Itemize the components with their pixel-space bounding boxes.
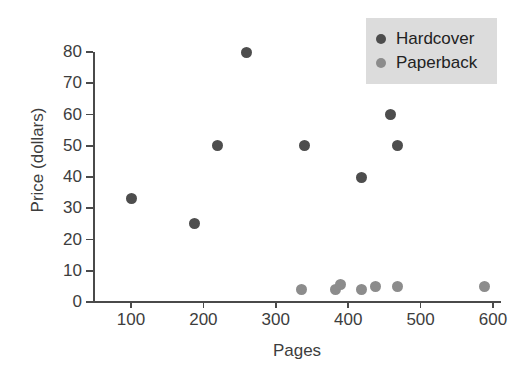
y-axis-tick (86, 176, 93, 178)
data-point (189, 218, 200, 229)
legend-marker-icon (376, 58, 386, 68)
x-axis-tick (203, 301, 205, 308)
x-axis-title: Pages (93, 341, 501, 361)
y-axis-tick (86, 239, 93, 241)
data-point (356, 284, 367, 295)
legend-item-label: Paperback (396, 53, 477, 73)
x-axis-tick (420, 301, 422, 308)
y-axis-tick (86, 207, 93, 209)
y-axis-tick-label: 10 (38, 261, 82, 281)
y-axis-tick-label: 80 (38, 42, 82, 62)
x-axis-tick-label: 300 (246, 310, 306, 330)
legend-item-paperback[interactable]: Paperback (376, 51, 497, 75)
x-axis-tick (275, 301, 277, 308)
x-axis-tick-label: 500 (391, 310, 451, 330)
x-axis-tick (130, 301, 132, 308)
y-axis-tick-label-wrap: 10 (34, 261, 82, 281)
y-axis-title: Price (dollars) (28, 60, 48, 260)
data-point (241, 47, 252, 58)
data-point (212, 140, 223, 151)
data-point (479, 281, 490, 292)
y-axis-tick (86, 301, 93, 303)
data-point (370, 281, 381, 292)
data-point (335, 279, 346, 290)
y-axis-line (93, 52, 95, 302)
chart-page: 01020304050607080 100200300400500600 Pri… (0, 0, 529, 380)
y-axis-tick-label-wrap: 0 (34, 292, 82, 312)
data-point (296, 284, 307, 295)
y-axis-tick (86, 145, 93, 147)
y-axis-tick (86, 270, 93, 272)
x-axis-tick-label: 100 (101, 310, 161, 330)
x-axis-tick (492, 301, 494, 308)
y-axis-tick-label-wrap: 80 (34, 42, 82, 62)
legend[interactable]: Hardcover Paperback (366, 18, 497, 84)
data-point (385, 109, 396, 120)
legend-item-hardcover[interactable]: Hardcover (376, 27, 497, 51)
data-point (392, 281, 403, 292)
y-axis-tick (86, 51, 93, 53)
y-axis-tick (86, 82, 93, 84)
data-point (392, 140, 403, 151)
data-point (126, 193, 137, 204)
legend-marker-icon (376, 34, 386, 44)
scatter-plot: 01020304050607080 100200300400500600 Pri… (0, 0, 529, 380)
x-axis-tick-label: 400 (318, 310, 378, 330)
data-point (299, 140, 310, 151)
x-axis-line (93, 301, 501, 303)
x-axis-tick-label: 200 (173, 310, 233, 330)
data-point (356, 172, 367, 183)
y-axis-tick (86, 114, 93, 116)
x-axis-tick-label: 600 (463, 310, 523, 330)
x-axis-tick (347, 301, 349, 308)
legend-item-label: Hardcover (396, 29, 474, 49)
y-axis-tick-label: 0 (38, 292, 82, 312)
